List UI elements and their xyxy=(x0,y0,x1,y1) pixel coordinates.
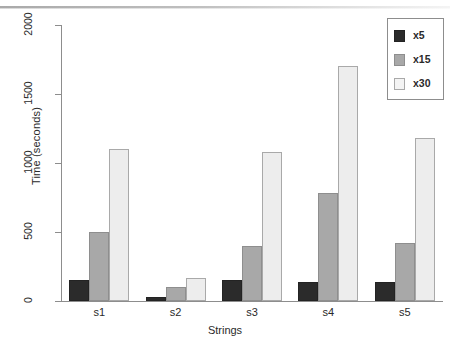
bar-s4-x30 xyxy=(338,66,358,301)
y-axis-tick-label: 1500 xyxy=(22,71,34,115)
bar-s3-x5 xyxy=(222,280,242,301)
bar-s5-x5 xyxy=(375,282,395,301)
bar-chart: Time (seconds) 0500100015002000 s1s2s3s4… xyxy=(0,0,450,347)
bar-s1-x30 xyxy=(109,149,129,301)
bar-group xyxy=(69,25,129,301)
y-axis-tick-label-wrap: 1000 xyxy=(6,156,50,170)
bar-s5-x30 xyxy=(415,138,435,301)
y-axis-tick xyxy=(55,301,61,302)
bar-s3-x30 xyxy=(262,152,282,301)
bar-s4-x15 xyxy=(318,193,338,301)
legend-swatch-x30 xyxy=(394,78,405,90)
x-axis-line xyxy=(61,301,443,302)
legend-swatch-x5 xyxy=(394,30,405,42)
y-axis-tick-label: 0 xyxy=(22,278,34,322)
legend-swatch-x15 xyxy=(394,54,405,66)
bar-s1-x15 xyxy=(89,232,109,301)
bar-s2-x30 xyxy=(186,278,206,301)
x-axis-tick-label-s1: s1 xyxy=(69,306,129,318)
x-axis-tick-label-s2: s2 xyxy=(146,306,206,318)
legend-label-x5: x5 xyxy=(413,29,425,41)
y-axis-tick-label: 1000 xyxy=(22,140,34,184)
y-axis-tick-label: 2000 xyxy=(22,2,34,46)
bar-s3-x15 xyxy=(242,246,262,301)
x-axis-tick-label-s4: s4 xyxy=(298,306,358,318)
bar-s5-x15 xyxy=(395,243,415,301)
legend-item-x15: x15 xyxy=(394,51,442,69)
x-axis-tick-label-s5: s5 xyxy=(375,306,435,318)
legend: x5x15x30 xyxy=(387,18,444,100)
bar-s2-x5 xyxy=(146,297,166,301)
legend-item-x5: x5 xyxy=(394,27,442,45)
legend-item-x30: x30 xyxy=(394,75,442,93)
y-axis-tick-label-wrap: 2000 xyxy=(6,18,50,32)
y-axis-tick-label-wrap: 500 xyxy=(6,225,50,239)
legend-label-x15: x15 xyxy=(413,53,431,65)
x-axis-title: Strings xyxy=(0,324,450,336)
bar-group xyxy=(146,25,206,301)
bar-group xyxy=(222,25,282,301)
legend-label-x30: x30 xyxy=(413,77,431,89)
bar-s2-x15 xyxy=(166,287,186,301)
bar-s1-x5 xyxy=(69,280,89,301)
y-axis-tick-label-wrap: 0 xyxy=(6,294,50,308)
y-axis-tick-label-wrap: 1500 xyxy=(6,87,50,101)
bar-s4-x5 xyxy=(298,282,318,301)
bar-group xyxy=(298,25,358,301)
y-axis-tick-label: 500 xyxy=(22,209,34,253)
x-axis-tick-label-s3: s3 xyxy=(222,306,282,318)
plot-area xyxy=(61,25,443,301)
